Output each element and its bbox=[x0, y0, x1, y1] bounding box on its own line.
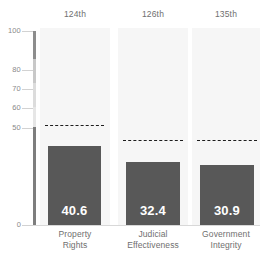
y-tick-label-70: 70 bbox=[0, 85, 21, 93]
bar-value-property-rights: 40.6 bbox=[48, 204, 101, 218]
y-tick-mark-50 bbox=[22, 128, 33, 129]
y-tick-mark-70 bbox=[22, 89, 33, 90]
y-tick-mark-80 bbox=[22, 70, 33, 71]
category-label-line-1: Judicial bbox=[114, 229, 192, 240]
reference-line-judicial-effectiveness bbox=[123, 140, 183, 141]
y-tick-label-50: 50 bbox=[0, 124, 21, 132]
category-label-line-2: Integrity bbox=[190, 240, 260, 251]
y-tick-label-0: 0 bbox=[0, 221, 21, 229]
category-label-line-1: Government bbox=[190, 229, 260, 240]
y-tick-label-80: 80 bbox=[0, 66, 21, 74]
y-tick-label-60: 60 bbox=[0, 104, 21, 112]
reference-line-government-integrity bbox=[197, 140, 257, 141]
category-label-judicial-effectiveness: Judicial Effectiveness bbox=[114, 229, 192, 250]
bar-chart: 124th 126th 135th 100 80 70 60 50 0 40.6… bbox=[0, 0, 260, 259]
category-label-property-rights: Property Rights bbox=[40, 229, 110, 250]
rank-label-2: 126th bbox=[118, 9, 188, 20]
baseline bbox=[33, 225, 260, 226]
category-label-line-1: Property bbox=[40, 229, 110, 240]
y-tick-label-100: 100 bbox=[0, 27, 21, 35]
y-tick-mark-60 bbox=[22, 108, 33, 109]
y-axis-spine bbox=[33, 31, 36, 226]
y-tick-mark-0 bbox=[22, 225, 33, 226]
bar-value-government-integrity: 30.9 bbox=[200, 204, 254, 218]
category-label-line-2: Effectiveness bbox=[114, 240, 192, 251]
y-tick-mark-100 bbox=[22, 31, 33, 32]
category-label-line-2: Rights bbox=[40, 240, 110, 251]
category-label-government-integrity: Government Integrity bbox=[190, 229, 260, 250]
rank-label-3: 135th bbox=[192, 9, 260, 20]
rank-label-1: 124th bbox=[40, 9, 110, 20]
reference-line-property-rights bbox=[45, 125, 104, 126]
bar-value-judicial-effectiveness: 32.4 bbox=[126, 204, 180, 218]
